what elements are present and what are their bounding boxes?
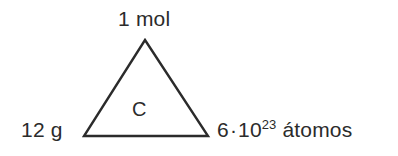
- atoms-base: 10: [238, 118, 262, 141]
- atoms-mantissa: 6: [217, 118, 229, 141]
- label-amount-mol: 1 mol: [118, 8, 170, 29]
- atoms-exponent: 23: [262, 117, 276, 132]
- label-number-of-atoms: 6·1023 átomos: [217, 119, 352, 140]
- atoms-unit: átomos: [282, 118, 352, 141]
- multiplication-dot-icon: ·: [229, 118, 238, 141]
- label-mass-grams: 12 g: [21, 119, 63, 140]
- mole-triangle-diagram: 1 mol 12 g C 6·1023 átomos: [0, 0, 398, 156]
- triangle-outline: [84, 40, 208, 136]
- label-element-symbol: C: [132, 99, 146, 119]
